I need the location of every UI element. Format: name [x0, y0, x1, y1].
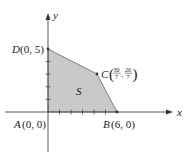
svg-text:20: 20 — [125, 67, 131, 73]
point-b-marker — [116, 111, 119, 114]
svg-text:(6, 0): (6, 0) — [111, 118, 135, 131]
region-s — [48, 49, 117, 112]
svg-text:7: 7 — [127, 74, 130, 80]
svg-text:(0, 5): (0, 5) — [20, 43, 44, 56]
svg-text:B: B — [103, 118, 110, 130]
point-b-label: B (6, 0) — [103, 118, 135, 131]
svg-text:30: 30 — [114, 67, 120, 73]
point-c-label: C ( 30 7 , 20 7 ) — [101, 66, 138, 83]
feasible-region-diagram: x y S D (0, 5) A (0, 0) B (6, 0) C — [0, 0, 192, 156]
y-axis-arrow-icon — [46, 13, 51, 20]
svg-text:A: A — [13, 118, 21, 130]
svg-text:,: , — [122, 71, 124, 79]
y-axis-label: y — [52, 9, 58, 21]
svg-text:D: D — [11, 43, 20, 55]
svg-text:C: C — [101, 68, 109, 80]
x-axis-label: x — [176, 106, 182, 118]
point-d-marker — [47, 48, 50, 51]
region-s-label: S — [76, 85, 82, 97]
svg-text:(0, 0): (0, 0) — [22, 118, 46, 131]
svg-text:): ) — [133, 66, 138, 83]
point-c-marker — [96, 73, 99, 76]
x-axis-arrow-icon — [166, 110, 173, 115]
svg-text:7: 7 — [115, 74, 118, 80]
point-a-label: A (0, 0) — [13, 118, 46, 131]
point-d-label: D (0, 5) — [11, 43, 44, 56]
